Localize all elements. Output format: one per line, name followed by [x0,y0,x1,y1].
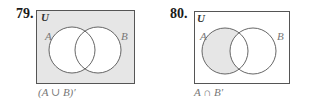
set-b-label: B [277,30,284,42]
shaded-complement-region [36,10,135,84]
set-a-label: A [45,30,52,42]
universe-label: U [41,11,49,23]
caption-80: A ∩ B′ [194,86,223,98]
venn-80 [195,12,290,84]
venn-79 [36,10,135,84]
caption-79: (A ∪ B)′ [38,86,76,99]
universe-label: U [197,12,205,24]
set-a-label: A [200,30,207,42]
set-b-label: B [121,30,128,42]
